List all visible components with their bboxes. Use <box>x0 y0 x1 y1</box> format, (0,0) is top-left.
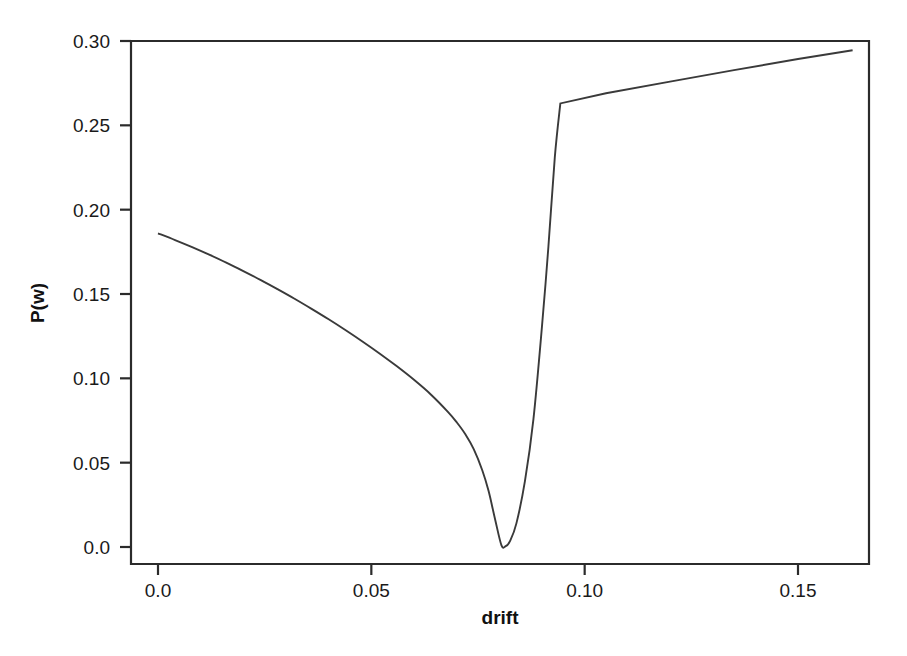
x-axis-title: drift <box>482 607 520 628</box>
y-tick-label: 0.25 <box>73 115 110 136</box>
y-tick-label: 0.0 <box>84 537 110 558</box>
chart-plot: 0.00.050.100.15 0.00.050.100.150.200.250… <box>0 0 907 656</box>
x-tick-label: 0.0 <box>145 580 171 601</box>
x-tick-label: 0.05 <box>353 580 390 601</box>
y-tick-label: 0.30 <box>73 31 110 52</box>
figure-background <box>0 0 907 656</box>
figure-container: 0.00.050.100.15 0.00.050.100.150.200.250… <box>0 0 907 656</box>
y-axis-title: P(w) <box>27 283 48 323</box>
x-tick-label: 0.10 <box>566 580 603 601</box>
y-tick-label: 0.20 <box>73 200 110 221</box>
y-tick-label: 0.10 <box>73 368 110 389</box>
x-tick-label: 0.15 <box>780 580 817 601</box>
y-tick-label: 0.15 <box>73 284 110 305</box>
y-tick-label: 0.05 <box>73 453 110 474</box>
